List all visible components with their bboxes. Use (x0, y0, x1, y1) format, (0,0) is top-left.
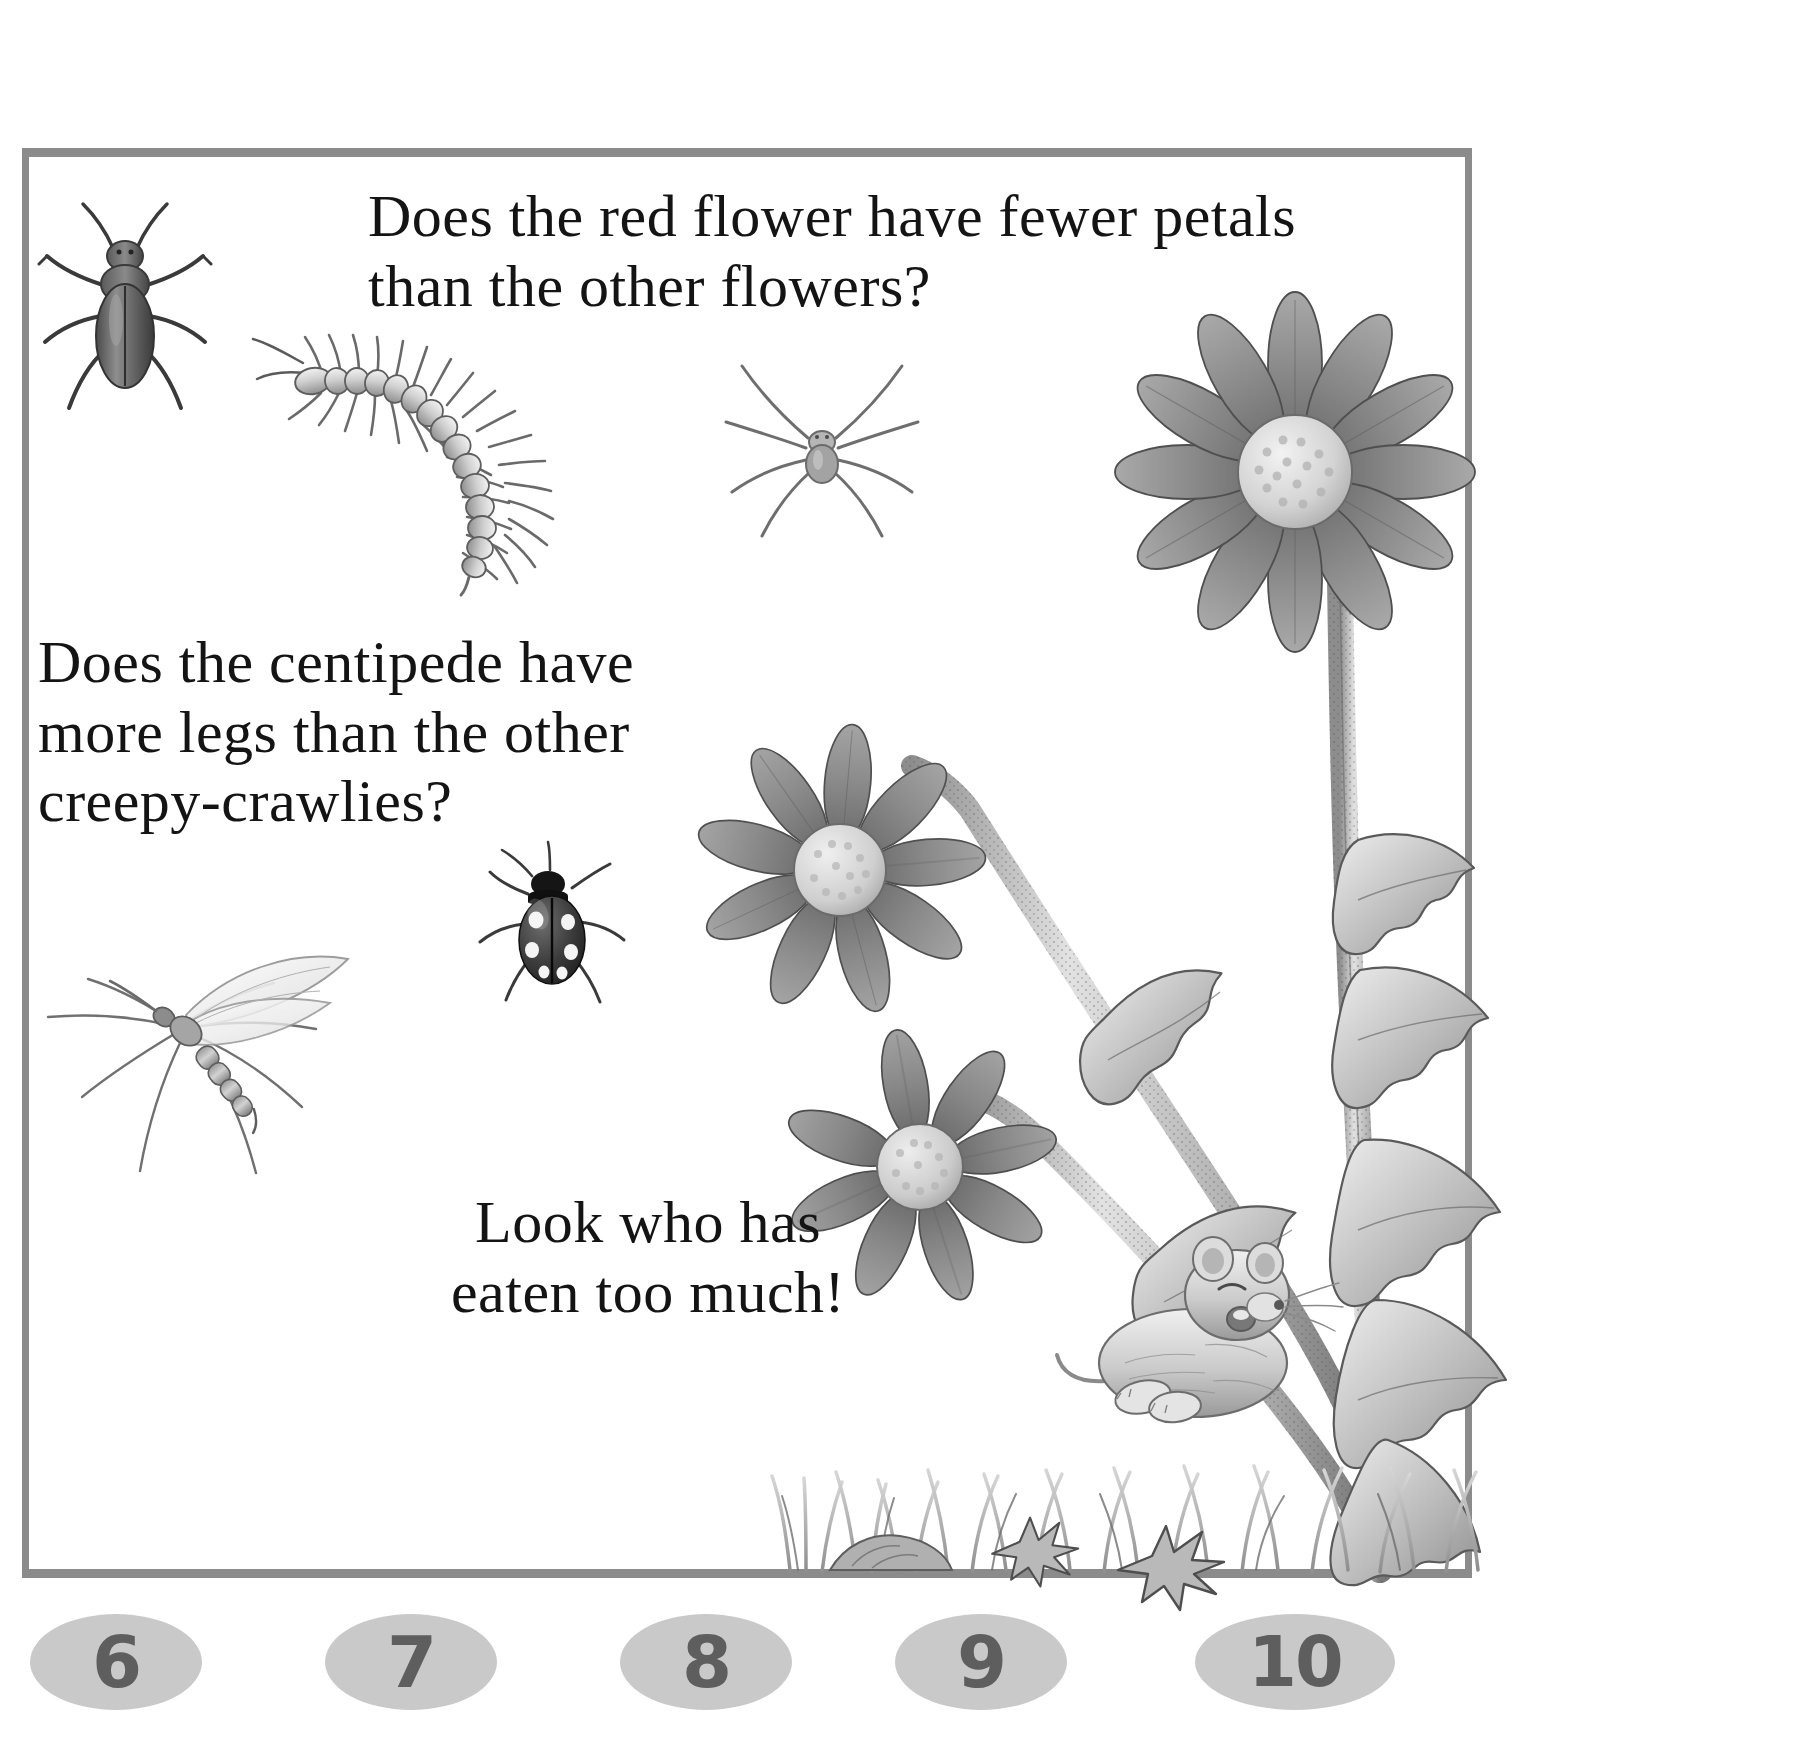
book-page: Does the red flower have fewer petals th… (0, 0, 1803, 1748)
caption-look-who-has-eaten: Look who has eaten too much! (378, 1188, 918, 1327)
question-centipede-legs: Does the centipede have more legs than t… (38, 628, 778, 837)
number-badge-9: 9 (895, 1614, 1067, 1710)
number-badge-6: 6 (30, 1614, 202, 1710)
number-badge-10: 10 (1195, 1614, 1395, 1710)
spider-illustration (712, 330, 932, 560)
mosquito-illustration (30, 875, 410, 1235)
number-strip: 678910 (0, 1596, 1803, 1736)
number-badge-label: 8 (682, 1626, 730, 1698)
number-badge-label: 10 (1248, 1627, 1341, 1697)
flower-top-illustration (1105, 300, 1485, 630)
number-badge-label: 7 (387, 1626, 435, 1698)
beetle-illustration (25, 190, 225, 420)
sleeping-mouse-illustration (1055, 1185, 1355, 1435)
number-badge-label: 9 (957, 1626, 1005, 1698)
number-badge-label: 6 (92, 1626, 140, 1698)
ladybird-illustration (468, 840, 648, 1020)
number-badge-7: 7 (325, 1614, 497, 1710)
centipede-illustration (245, 325, 695, 595)
question-red-flower: Does the red flower have fewer petals th… (368, 182, 1458, 321)
number-badge-8: 8 (620, 1614, 792, 1710)
